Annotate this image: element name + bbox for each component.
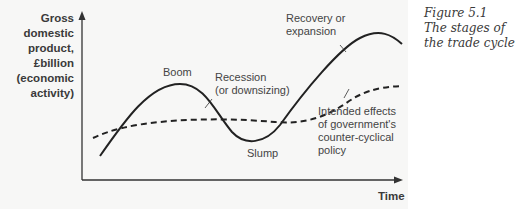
- figure-title-line1: The stages of: [424, 21, 515, 36]
- boom-label: Boom: [163, 66, 192, 79]
- recovery-label-line1: Recovery or: [286, 12, 345, 25]
- policy-label-line2: of government's: [318, 118, 396, 131]
- y-label-line: activity): [0, 86, 74, 101]
- y-label-line: (economic: [0, 71, 74, 86]
- recovery-label: Recovery or expansion: [286, 12, 345, 38]
- policy-label-line3: counter-cyclical: [318, 131, 396, 144]
- policy-label-line1: Intended effects: [318, 105, 396, 118]
- recovery-label-line2: expansion: [286, 25, 345, 38]
- figure-caption: Figure 5.1 The stages of the trade cycle: [424, 6, 515, 51]
- y-label-line: £billion: [0, 56, 74, 71]
- slump-label: Slump: [247, 147, 278, 160]
- x-axis-arrow-icon: [394, 177, 403, 184]
- y-label-line: product,: [0, 41, 74, 56]
- policy-label: Intended effects of government's counter…: [318, 105, 396, 157]
- y-label-line: domestic: [0, 26, 74, 41]
- x-axis-label: Time: [378, 190, 405, 202]
- figure-number: Figure 5.1: [424, 6, 515, 21]
- policy-label-line4: policy: [318, 144, 396, 157]
- policy-leader-line: [344, 89, 349, 98]
- y-axis-arrow-icon: [79, 11, 86, 20]
- figure-title-line2: the trade cycle: [424, 36, 515, 51]
- recession-label: Recession (or downsizing): [215, 71, 290, 97]
- recession-label-line2: (or downsizing): [215, 84, 290, 97]
- y-label-line: Gross: [0, 11, 74, 26]
- recession-label-line1: Recession: [215, 71, 290, 84]
- y-axis-label: Gross domestic product, £billion (econom…: [0, 11, 74, 101]
